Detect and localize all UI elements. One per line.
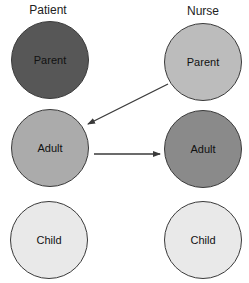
arrow-nurse-parent-to-patient-adult bbox=[88, 84, 168, 124]
transaction-arrows bbox=[0, 0, 249, 283]
